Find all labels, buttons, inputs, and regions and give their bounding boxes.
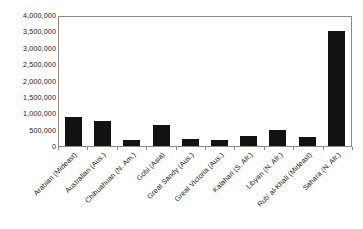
plot-area: [58, 16, 352, 147]
bar: [299, 137, 316, 146]
x-axis-tick: [58, 147, 59, 150]
y-axis-tick-label: 2,000,000: [0, 78, 56, 86]
bar: [94, 121, 111, 146]
bar: [269, 130, 286, 146]
bar: [65, 117, 82, 146]
x-axis-tick: [323, 147, 324, 150]
bars-layer: [59, 17, 351, 146]
y-axis-tick-label: 1,000,000: [0, 110, 56, 118]
x-axis-tick: [234, 147, 235, 150]
y-axis-tick-label: 3,500,000: [0, 28, 56, 36]
y-axis-tick-label: 2,500,000: [0, 61, 56, 69]
bar: [153, 125, 170, 146]
y-axis-tick-label: 1,500,000: [0, 94, 56, 102]
y-axis-tick-label: 0: [0, 143, 56, 151]
x-axis-tick: [146, 147, 147, 150]
bar: [123, 140, 140, 146]
bar: [240, 136, 257, 146]
x-axis-tick: [205, 147, 206, 150]
x-axis-tick: [293, 147, 294, 150]
x-axis-tick: [176, 147, 177, 150]
bar: [182, 139, 199, 146]
bar: [211, 140, 228, 146]
bar-chart: 4,000,0003,500,0003,000,0002,500,0002,00…: [0, 0, 363, 229]
y-axis-tick-label: 3,000,000: [0, 45, 56, 53]
x-axis-tick: [352, 147, 353, 150]
x-axis: Arabian (Mideast)Australian (Aus.)Chihua…: [58, 151, 363, 229]
x-axis-tick: [117, 147, 118, 150]
x-axis-tick: [264, 147, 265, 150]
y-axis-tick-label: 4,000,000: [0, 12, 56, 20]
y-axis-tick-label: 500,000: [0, 127, 56, 135]
bar: [328, 31, 345, 146]
x-axis-tick: [87, 147, 88, 150]
